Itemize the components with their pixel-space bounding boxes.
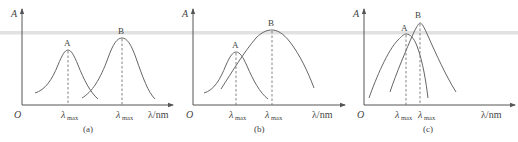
svg-text:max: max [401, 114, 413, 121]
panel-b: A O A B λ max λ max λ/nm (b) [181, 8, 345, 134]
svg-text:max: max [235, 114, 247, 121]
svg-text:max: max [67, 114, 79, 121]
lambda-max-label-a: λ max [228, 109, 247, 121]
lambda-max-label-a: λ max [394, 109, 413, 121]
peak-label-a: A [232, 40, 239, 50]
y-axis-label: A [10, 8, 18, 19]
peak-label-b: B [118, 26, 124, 36]
peak-label-a: A [401, 23, 408, 33]
svg-text:max: max [271, 114, 283, 121]
x-axis-label: λ/nm [481, 109, 502, 120]
curve-b [82, 38, 155, 99]
origin-label: O [14, 109, 21, 120]
origin-label: O [186, 109, 193, 120]
svg-text:max: max [424, 114, 436, 121]
peak-label-b: B [415, 10, 421, 20]
panel-caption-a: (a) [83, 124, 93, 134]
svg-text:λ: λ [115, 109, 121, 120]
panel-c: A O A B λ max λ max λ/nm (c) [352, 8, 515, 134]
curve-b [221, 30, 314, 89]
curve-a [35, 50, 98, 99]
svg-text:λ: λ [264, 109, 270, 120]
scan-artifact-band [0, 31, 518, 35]
peak-label-b: B [268, 18, 274, 28]
lambda-max-label-b: λ max [264, 109, 283, 121]
x-axis-label: λ/nm [312, 109, 333, 120]
svg-text:λ: λ [60, 109, 66, 120]
lambda-max-label-a: λ max [60, 109, 79, 121]
x-axis-label: λ/nm [148, 109, 169, 120]
svg-text:λ: λ [394, 109, 400, 120]
panel-a: A O A B λ max λ max λ/nm (a) [10, 8, 173, 134]
absorption-spectra-figure: A O A B λ max λ max λ/nm (a) A O A B λ [0, 0, 518, 142]
lambda-max-label-b: λ max [417, 109, 436, 121]
panel-caption-c: (c) [423, 124, 433, 134]
svg-text:max: max [122, 114, 134, 121]
lambda-max-label-b: λ max [115, 109, 134, 121]
svg-text:λ: λ [417, 109, 423, 120]
origin-label: O [357, 109, 364, 120]
panel-caption-b: (b) [254, 124, 265, 134]
y-axis-label: A [181, 8, 189, 19]
y-axis-label: A [352, 8, 360, 19]
svg-text:λ: λ [228, 109, 234, 120]
curve-a [369, 34, 428, 98]
peak-label-a: A [64, 38, 71, 48]
